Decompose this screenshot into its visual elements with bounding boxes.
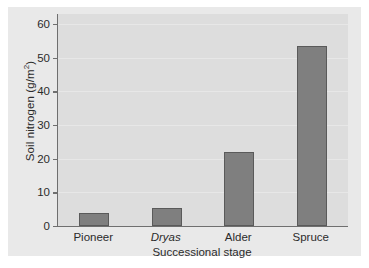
x-tick-label: Dryas [151,231,181,243]
bar [224,152,254,226]
y-tick-label: 30 [37,119,50,131]
y-tick-label: 60 [37,18,50,30]
x-axis-title: Successional stage [57,246,347,258]
y-axis-title: Soil nitrogen (g/m2) [24,26,36,196]
y-tick-label: 0 [44,220,50,232]
y-tick-label: 20 [37,153,50,165]
y-axis-title-tail: ) [24,61,36,65]
bar [79,213,109,226]
y-tick-mark [53,24,58,25]
plot-area: 0102030405060 [57,14,348,227]
y-tick-mark [53,192,58,193]
y-tick-mark [53,125,58,126]
gridline [58,24,348,25]
y-axis-title-text: Soil nitrogen (g/m [24,69,36,161]
x-tick-label: Alder [225,231,252,243]
bar [152,208,182,227]
y-tick-mark [53,91,58,92]
y-tick-label: 10 [37,186,50,198]
y-tick-mark [53,58,58,59]
y-tick-label: 50 [37,52,50,64]
y-tick-label: 40 [37,85,50,97]
figure-background: Soil nitrogen (g/m2) 0102030405060 Pione… [8,7,361,256]
y-axis-title-superscript: 2 [22,65,31,70]
y-tick-mark [53,226,58,227]
y-tick-mark [53,159,58,160]
bar [297,46,327,226]
x-tick-label: Pioneer [73,231,113,243]
x-tick-label: Spruce [293,231,329,243]
